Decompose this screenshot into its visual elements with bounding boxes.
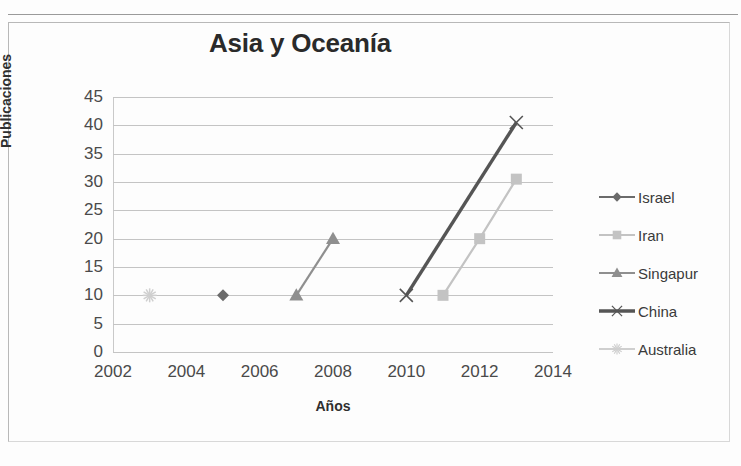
legend-swatch-triangle-icon	[598, 265, 636, 281]
x-axis-tick-label: 2002	[94, 362, 132, 382]
x-marker	[400, 289, 413, 302]
x-axis-tick-label: 2006	[241, 362, 279, 382]
page-frame-top-edge	[8, 14, 738, 15]
legend-label: Australia	[636, 341, 696, 358]
legend-item-singapur[interactable]: Singapur	[598, 254, 738, 292]
y-axis-tick-label: 10	[61, 285, 103, 305]
x-axis-tick-label: 2008	[314, 362, 352, 382]
series-line	[406, 123, 516, 296]
plot-area	[113, 97, 553, 352]
square-marker	[474, 233, 485, 244]
y-axis-tick-label: 45	[61, 87, 103, 107]
star-marker	[143, 288, 157, 302]
y-axis-label: Publicaciones	[0, 54, 14, 148]
series-layer	[113, 97, 553, 352]
series-china	[400, 116, 523, 302]
y-axis-tick-label: 30	[61, 172, 103, 192]
x-axis-tick-label: 2014	[534, 362, 572, 382]
legend-swatch-square-icon	[598, 227, 636, 243]
x-axis-tick-label: 2004	[167, 362, 205, 382]
y-axis-tick-label: 5	[61, 314, 103, 334]
legend-item-australia[interactable]: Australia	[598, 330, 738, 368]
series-iran	[438, 174, 522, 301]
legend-label: China	[636, 303, 677, 320]
chart-figure: Asia y Oceanía Publicaciones 05101520253…	[0, 0, 741, 466]
series-line	[296, 239, 333, 296]
legend-item-iran[interactable]: Iran	[598, 216, 738, 254]
legend-item-israel[interactable]: Israel	[598, 178, 738, 216]
legend-item-china[interactable]: China	[598, 292, 738, 330]
diamond-marker	[217, 289, 229, 301]
diamond-marker	[612, 192, 621, 201]
legend-label: Iran	[636, 227, 664, 244]
series-australia	[143, 288, 157, 302]
y-axis-tick-label: 25	[61, 200, 103, 220]
gridline	[113, 352, 553, 353]
triangle-marker	[326, 232, 340, 244]
triangle-marker	[289, 288, 303, 300]
y-axis-tick-label: 15	[61, 257, 103, 277]
legend-swatch-diamond-icon	[598, 189, 636, 205]
x-axis-tick-labels: 2002200420062008201020122014	[113, 362, 553, 390]
square-marker	[613, 231, 622, 240]
square-marker	[438, 290, 449, 301]
y-axis-tick-label: 20	[61, 229, 103, 249]
legend-label: Singapur	[636, 265, 698, 282]
legend-swatch-star-icon	[598, 341, 636, 357]
y-axis-tick-label: 35	[61, 144, 103, 164]
legend-swatch-x-icon	[598, 303, 636, 319]
series-israel	[217, 289, 229, 301]
x-axis-tick-label: 2012	[461, 362, 499, 382]
y-axis-tick-label: 0	[61, 342, 103, 362]
square-marker	[511, 174, 522, 185]
chart-title: Asia y Oceanía	[0, 28, 600, 59]
y-axis-tick-labels: 051015202530354045	[57, 97, 103, 352]
x-marker	[510, 116, 523, 129]
legend-label: Israel	[636, 189, 675, 206]
y-axis-tick-label: 40	[61, 115, 103, 135]
x-axis-tick-label: 2010	[387, 362, 425, 382]
star-marker	[612, 344, 623, 355]
x-axis-label: Años	[113, 398, 553, 414]
chart-legend: IsraelIranSingapurChinaAustralia	[598, 178, 738, 368]
series-singapur	[289, 232, 340, 301]
